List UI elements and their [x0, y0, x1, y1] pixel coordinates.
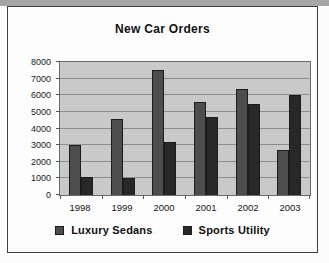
y-axis-label: 0 — [11, 191, 51, 200]
bar-luxury-sedans-1998 — [69, 145, 81, 195]
y-axis-label: 6000 — [11, 91, 51, 100]
legend-label-sports-utility: Sports Utility — [199, 224, 270, 236]
bar-luxury-sedans-2002 — [236, 89, 248, 195]
x-axis-tick — [227, 195, 228, 199]
legend-item-luxury-sedans: Luxury Sedans — [55, 224, 152, 236]
chart-title: New Car Orders — [8, 22, 317, 36]
x-axis-tick — [60, 195, 61, 199]
bar-group-1998 — [60, 62, 102, 195]
bar-sports-utility-1998 — [81, 177, 93, 195]
bar-luxury-sedans-2000 — [152, 70, 164, 195]
legend-label-luxury-sedans: Luxury Sedans — [71, 224, 152, 236]
x-axis-tick — [185, 195, 186, 199]
bars-layer — [60, 62, 310, 195]
bar-sports-utility-2000 — [164, 142, 176, 195]
bar-sports-utility-2003 — [289, 95, 301, 195]
bar-group-2001 — [185, 62, 227, 195]
legend-item-sports-utility: Sports Utility — [183, 224, 270, 236]
legend-swatch-luxury-sedans-icon — [55, 226, 64, 235]
legend: Luxury Sedans Sports Utility — [8, 224, 317, 236]
y-axis-label: 3000 — [11, 141, 51, 150]
x-axis-tick — [268, 195, 269, 199]
bar-group-2002 — [227, 62, 269, 195]
x-axis-tick — [102, 195, 103, 199]
x-axis-labels: 199819992000200120022003 — [59, 202, 311, 213]
x-axis-label-2000: 2000 — [143, 202, 185, 213]
x-axis-label-2001: 2001 — [185, 202, 227, 213]
bar-luxury-sedans-1999 — [111, 119, 123, 195]
y-axis-label: 2000 — [11, 157, 51, 166]
x-axis-label-2002: 2002 — [227, 202, 269, 213]
bar-luxury-sedans-2003 — [277, 150, 289, 195]
y-axis-label: 1000 — [11, 174, 51, 183]
bar-group-1999 — [102, 62, 144, 195]
bar-sports-utility-2002 — [248, 104, 260, 195]
bar-group-2000 — [143, 62, 185, 195]
x-axis-tick — [143, 195, 144, 199]
bar-luxury-sedans-2001 — [194, 102, 206, 195]
legend-swatch-sports-utility-icon — [183, 226, 192, 235]
y-axis-label: 5000 — [11, 107, 51, 116]
bar-group-2003 — [268, 62, 310, 195]
plot-area: 010002000300040005000600070008000 — [59, 61, 311, 196]
bar-sports-utility-2001 — [206, 117, 218, 195]
chart-panel: New Car Orders 0100020003000400050006000… — [7, 6, 318, 253]
y-axis-label: 7000 — [11, 74, 51, 83]
x-axis-label-1998: 1998 — [59, 202, 101, 213]
x-axis-tick — [309, 195, 310, 199]
bar-sports-utility-1999 — [123, 178, 135, 195]
y-axis-label: 8000 — [11, 58, 51, 67]
x-axis-label-1999: 1999 — [101, 202, 143, 213]
x-axis-label-2003: 2003 — [269, 202, 311, 213]
y-axis-label: 4000 — [11, 124, 51, 133]
